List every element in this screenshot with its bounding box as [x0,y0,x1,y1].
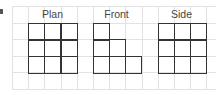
view-cell-plan [44,56,61,74]
view-cell-side [174,39,191,57]
view-label-front: Front [92,6,141,23]
grid-line-vertical [142,6,143,89]
view-label-side: Side [157,6,206,23]
view-cell-plan [44,39,61,57]
view-cell-plan [61,39,78,57]
grid-line-horizontal [12,89,216,90]
square-grid: Plan Front Side [12,6,206,89]
view-cell-front [125,56,142,74]
view-cell-side [190,39,207,57]
view-label-plan: Plan [28,6,77,23]
view-cell-side [158,56,175,74]
view-cell-front [93,39,110,57]
figure-marker [0,9,3,14]
view-cell-front [109,56,126,74]
view-cell-side [190,56,207,74]
view-cell-front [109,39,126,57]
view-cell-plan [28,56,45,74]
grid-line-vertical [12,6,13,89]
view-cell-side [158,39,175,57]
view-cell-plan [61,56,78,74]
view-cell-side [174,56,191,74]
view-cell-front [93,56,110,74]
view-cell-plan [28,39,45,57]
